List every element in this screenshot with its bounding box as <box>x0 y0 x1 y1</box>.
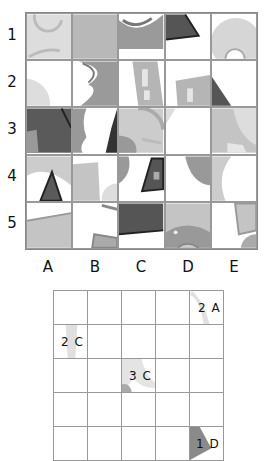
hint-label: 2 A <box>198 301 221 315</box>
tile-2B[interactable] <box>72 60 118 107</box>
tile-4D[interactable] <box>165 155 211 202</box>
col-label-B: B <box>72 258 118 276</box>
tile-2A[interactable] <box>26 60 72 107</box>
tile-2C[interactable] <box>118 60 164 107</box>
tile-1D[interactable] <box>165 13 211 60</box>
row-label-2: 2 <box>4 73 20 91</box>
hint-label: 1 D <box>196 437 220 451</box>
col-label-C: C <box>118 258 164 276</box>
tile-4E[interactable] <box>211 155 257 202</box>
answer-cell-4-2[interactable] <box>88 393 122 427</box>
answer-cell-2-2[interactable] <box>88 325 122 359</box>
col-label-D: D <box>165 258 211 276</box>
tile-3E[interactable] <box>211 107 257 154</box>
answer-cell-3-5[interactable] <box>190 359 224 393</box>
answer-cell-3-2[interactable] <box>88 359 122 393</box>
answer-cell-5-2[interactable] <box>88 427 122 461</box>
tile-3C[interactable] <box>118 107 164 154</box>
tile-2D[interactable] <box>165 60 211 107</box>
answer-cell-3-4[interactable] <box>156 359 190 393</box>
tile-5B[interactable] <box>72 202 118 249</box>
answer-cell-2-4[interactable] <box>156 325 190 359</box>
answer-cell-2-3[interactable] <box>122 325 156 359</box>
answer-cell-1-1[interactable] <box>54 291 88 325</box>
hint-label: 2 C <box>61 335 84 349</box>
answer-grid: 2 A 2 C 3 C 1 D <box>53 290 224 461</box>
answer-cell-1-2[interactable] <box>88 291 122 325</box>
answer-cell-4-1[interactable] <box>54 393 88 427</box>
answer-cell-1-3[interactable] <box>122 291 156 325</box>
tile-5D[interactable] <box>165 202 211 249</box>
col-label-A: A <box>25 258 71 276</box>
tile-4A[interactable] <box>26 155 72 202</box>
tile-5C[interactable] <box>118 202 164 249</box>
tile-3A[interactable] <box>26 107 72 154</box>
answer-cell-2-5[interactable] <box>190 325 224 359</box>
tile-4B[interactable] <box>72 155 118 202</box>
answer-cell-5-5[interactable]: 1 D <box>190 427 224 461</box>
tile-3B[interactable] <box>72 107 118 154</box>
row-label-3: 3 <box>4 120 20 138</box>
answer-cell-3-3[interactable]: 3 C <box>122 359 156 393</box>
answer-cell-3-1[interactable] <box>54 359 88 393</box>
tile-1B[interactable] <box>72 13 118 60</box>
answer-cell-1-5[interactable]: 2 A <box>190 291 224 325</box>
answer-cell-5-1[interactable] <box>54 427 88 461</box>
row-label-4: 4 <box>4 167 20 185</box>
answer-cell-5-3[interactable] <box>122 427 156 461</box>
answer-cell-2-1[interactable]: 2 C <box>54 325 88 359</box>
row-label-5: 5 <box>4 214 20 232</box>
row-label-1: 1 <box>4 26 20 44</box>
tile-3D[interactable] <box>165 107 211 154</box>
scrambled-puzzle-grid <box>25 12 258 250</box>
tile-1A[interactable] <box>26 13 72 60</box>
hint-label: 3 C <box>129 369 152 383</box>
answer-cell-4-5[interactable] <box>190 393 224 427</box>
answer-cell-4-4[interactable] <box>156 393 190 427</box>
answer-cell-5-4[interactable] <box>156 427 190 461</box>
tile-5E[interactable] <box>211 202 257 249</box>
tile-5A[interactable] <box>26 202 72 249</box>
tile-4C[interactable] <box>118 155 164 202</box>
tile-1C[interactable] <box>118 13 164 60</box>
tile-2E[interactable] <box>211 60 257 107</box>
answer-cell-1-4[interactable] <box>156 291 190 325</box>
tile-1E[interactable] <box>211 13 257 60</box>
answer-cell-4-3[interactable] <box>122 393 156 427</box>
col-label-E: E <box>211 258 257 276</box>
